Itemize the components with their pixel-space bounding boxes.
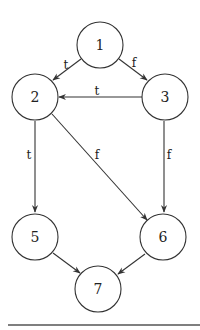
node-label: 6 [159, 229, 168, 245]
edge-label: f [167, 148, 173, 162]
edge-3-to-2: t [59, 84, 142, 98]
edge-1-to-2: t [53, 58, 81, 80]
node-label: 5 [31, 229, 40, 245]
edge-label: f [132, 56, 138, 70]
node-label: 3 [161, 89, 170, 105]
node-2: 2 [12, 74, 58, 120]
edge-1-to-3: f [119, 56, 147, 80]
edge-3-to-6: f [164, 121, 173, 212]
flow-graph-diagram: t f t t f f 1 2 3 5 6 [0, 0, 200, 330]
node-7: 7 [75, 266, 121, 312]
edge-2-to-5: t [27, 121, 35, 212]
edge-label: t [27, 148, 32, 162]
edge-5-to-7 [53, 253, 80, 273]
node-label: 1 [96, 37, 105, 53]
node-label: 7 [94, 281, 103, 297]
edge-label: t [64, 58, 69, 72]
node-1: 1 [77, 22, 123, 68]
node-3: 3 [142, 74, 188, 120]
node-5: 5 [12, 214, 58, 260]
edge-2-to-6: f [52, 114, 147, 220]
edge-label: t [95, 84, 100, 98]
edge-6-to-7 [118, 254, 145, 274]
edge-label: f [95, 148, 101, 162]
node-label: 2 [31, 89, 40, 105]
node-6: 6 [140, 214, 186, 260]
